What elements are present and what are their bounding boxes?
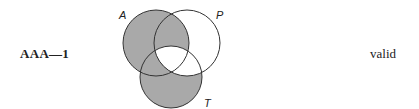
validity-label: valid: [370, 46, 396, 62]
term-t-label: T: [204, 97, 212, 109]
term-p-label: P: [216, 9, 224, 21]
venn-diagram: A P T: [0, 0, 419, 109]
term-a-label: A: [118, 9, 126, 21]
